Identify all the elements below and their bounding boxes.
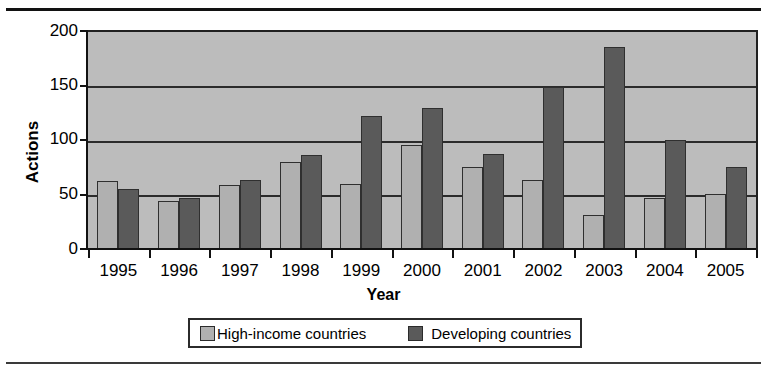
x-tick-label-2003: 2003 — [569, 261, 639, 280]
bar-2000-developing — [422, 108, 443, 250]
bar-1999-high-income — [340, 184, 361, 250]
gridline-150 — [88, 86, 756, 88]
bar-1997-developing — [240, 180, 261, 250]
bar-2004-developing — [665, 140, 686, 250]
y-tick-label-0: 0 — [34, 240, 78, 257]
bar-2002-high-income — [522, 180, 543, 250]
x-tick-mark-1995 — [149, 250, 151, 258]
legend-label-developing: Developing countries — [431, 325, 571, 342]
x-tick-label-1999: 1999 — [326, 261, 396, 280]
plot-inner — [88, 32, 756, 250]
y-tick-label-150: 150 — [34, 76, 78, 93]
bar-1995-high-income — [97, 181, 118, 250]
plot-area — [88, 30, 758, 250]
y-tick-label-100: 100 — [34, 130, 78, 147]
chart-legend: High-income countries Developing countri… — [188, 318, 582, 348]
x-axis-label: Year — [0, 286, 767, 304]
bar-2001-developing — [483, 154, 504, 250]
x-tick-mark-1996 — [209, 250, 211, 258]
bar-2002-developing — [543, 87, 564, 251]
bar-1995-developing — [118, 189, 139, 250]
x-axis-line — [86, 248, 756, 250]
legend-item-high-income: High-income countries — [200, 325, 366, 342]
x-tick-label-2005: 2005 — [691, 261, 761, 280]
x-tick-mark-origin — [88, 250, 90, 258]
legend-item-developing: Developing countries — [408, 325, 571, 342]
x-tick-mark-2002 — [574, 250, 576, 258]
bar-1999-developing — [361, 116, 382, 250]
x-tick-label-2002: 2002 — [508, 261, 578, 280]
x-tick-mark-2004 — [695, 250, 697, 258]
figure: Actions 200 150 100 50 0 199519961997199… — [0, 0, 767, 374]
bar-2003-high-income — [583, 215, 604, 250]
bar-chart: Actions 200 150 100 50 0 199519961997199… — [0, 14, 767, 304]
bar-1998-developing — [301, 155, 322, 250]
bar-2005-developing — [726, 167, 747, 250]
x-tick-mark-1999 — [392, 250, 394, 258]
bar-2005-high-income — [705, 194, 726, 250]
x-tick-mark-2005 — [756, 250, 758, 258]
y-tick-label-200: 200 — [34, 22, 78, 39]
bar-2001-high-income — [462, 167, 483, 250]
legend-label-high-income: High-income countries — [217, 325, 366, 342]
x-tick-label-1998: 1998 — [266, 261, 336, 280]
bar-1996-developing — [179, 198, 200, 250]
x-tick-label-2001: 2001 — [448, 261, 518, 280]
bar-2004-high-income — [644, 198, 665, 250]
bar-1996-high-income — [158, 201, 179, 250]
bar-2000-high-income — [401, 145, 422, 250]
x-tick-label-2004: 2004 — [630, 261, 700, 280]
bar-2003-developing — [604, 47, 625, 250]
x-tick-mark-2000 — [452, 250, 454, 258]
x-tick-label-1995: 1995 — [83, 261, 153, 280]
x-tick-mark-1998 — [331, 250, 333, 258]
bottom-rule — [6, 362, 761, 364]
x-tick-mark-1997 — [270, 250, 272, 258]
x-tick-mark-2003 — [635, 250, 637, 258]
x-tick-mark-2001 — [513, 250, 515, 258]
bar-1997-high-income — [219, 185, 240, 250]
x-tick-label-1996: 1996 — [144, 261, 214, 280]
dark-gray-swatch-icon — [408, 326, 423, 341]
x-tick-label-1997: 1997 — [205, 261, 275, 280]
top-rule — [6, 8, 761, 11]
bar-1998-high-income — [280, 162, 301, 250]
y-tick-label-50: 50 — [34, 185, 78, 202]
light-gray-swatch-icon — [200, 326, 215, 341]
x-tick-label-2000: 2000 — [387, 261, 457, 280]
